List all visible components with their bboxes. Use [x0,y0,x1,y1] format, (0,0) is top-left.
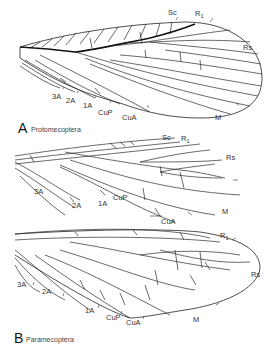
label-mid-cup: CuP [113,193,128,202]
label-b-rs: Rs [251,270,260,279]
label-a-cua: CuA [122,113,137,122]
label-a-3a: 3A [52,92,61,101]
label-mid-cua: CuA [161,217,176,226]
label-b-3a: 3A [17,280,26,289]
wing-venation-figure: Sc R1 Rs M CuA CuP 1A 2A 3A A Protomecop… [0,0,271,345]
label-a-r1: R1 [195,9,203,19]
label-mid-r1: R1 [181,134,189,144]
panel-a-letter: A [18,120,28,136]
label-b-cup: CuP [106,313,121,322]
label-a-cup: CuP [98,108,113,117]
label-a-2a: 2A [66,96,75,105]
wing-b-outline [15,230,260,318]
label-mid-1a: 1A [98,199,107,208]
label-a-1a: 1A [83,101,92,110]
panel-b-name: Paramecoptera [26,336,74,344]
label-mid-3a: 3A [34,187,43,196]
label-mid-m: M [222,207,228,216]
panel-b-letter: B [14,330,23,345]
label-b-m: M [193,315,199,324]
label-a-sc: Sc [168,8,177,17]
label-mid-rs: Rs [226,153,235,162]
label-a-m: M [215,113,221,122]
label-a-rs: Rs [243,43,252,52]
label-b-2a: 2A [42,287,51,296]
panel-a-name: Protomecoptera [31,126,81,134]
wing-middle [15,138,240,222]
label-mid-sc: Sc [162,133,171,142]
wing-b-paramecoptera [15,229,260,319]
label-mid-2a: 2A [72,201,81,210]
label-b-r1: R1 [220,231,228,241]
wing-a-protomecoptera [20,17,262,118]
label-b-1a: 1A [85,306,94,315]
label-b-cua: CuA [126,318,141,327]
